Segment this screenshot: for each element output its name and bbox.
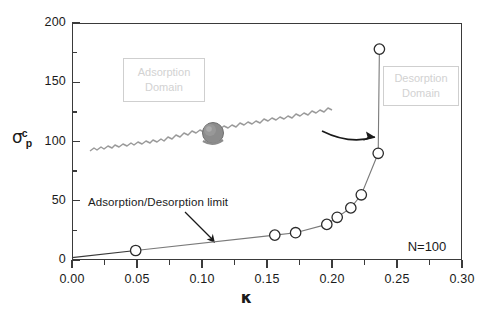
data-point — [322, 219, 332, 229]
limit-guide-line — [72, 251, 136, 258]
data-point-group — [131, 44, 385, 256]
data-connector-line — [136, 49, 380, 250]
data-point — [270, 230, 280, 240]
plot-overlay — [0, 0, 493, 326]
data-point — [332, 212, 342, 222]
figure-container: 200150100500 0.000.050.100.150.200.250.3… — [0, 0, 493, 326]
data-point — [374, 44, 384, 54]
transition-arrow-icon — [322, 131, 375, 141]
data-point — [290, 228, 300, 238]
data-point — [346, 203, 356, 213]
data-point — [373, 148, 383, 158]
particle-sphere-icon — [203, 123, 224, 144]
data-point — [356, 190, 366, 200]
data-point — [131, 245, 141, 255]
limit-annotation-arrow-icon — [185, 212, 215, 243]
